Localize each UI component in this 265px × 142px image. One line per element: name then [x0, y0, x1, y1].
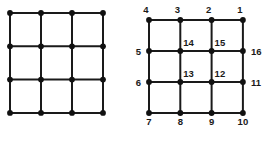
grid-vertex [7, 10, 13, 16]
grid-vertex [38, 77, 44, 83]
labeled-lattice-grid [146, 17, 246, 116]
vertex-label-5: 5 [136, 46, 142, 57]
vertex-label-8: 8 [178, 116, 183, 127]
grid-vertex [69, 110, 75, 116]
grid-vertex [7, 77, 13, 83]
grid-vertex [177, 79, 183, 85]
grid-vertex [209, 17, 215, 23]
grid-vertex [100, 43, 106, 49]
vertex-label-9: 9 [209, 116, 214, 127]
grid-vertex [177, 48, 183, 54]
grid-vertex [146, 79, 152, 85]
vertex-label-1: 1 [237, 4, 243, 15]
grid-vertex [240, 79, 246, 85]
vertex-label-13: 13 [183, 68, 194, 79]
grid-vertex [209, 48, 215, 54]
vertex-label-16: 16 [251, 46, 262, 57]
grid-vertex [69, 77, 75, 83]
vertex-label-12: 12 [215, 68, 226, 79]
grid-vertex [240, 48, 246, 54]
grid-vertex [146, 48, 152, 54]
grid-vertex [100, 110, 106, 116]
grid-vertex [69, 43, 75, 49]
vertex-label-7: 7 [146, 116, 151, 127]
vertex-label-14: 14 [183, 37, 194, 48]
vertex-label-6: 6 [136, 77, 141, 88]
grid-vertex [177, 17, 183, 23]
grid-vertex [209, 79, 215, 85]
grid-vertex [38, 43, 44, 49]
grid-vertex [240, 17, 246, 23]
vertex-label-2: 2 [206, 4, 211, 15]
vertex-label-10: 10 [238, 116, 249, 127]
vertex-label-4: 4 [143, 4, 149, 15]
grid-vertex [7, 43, 13, 49]
grid-vertex [7, 110, 13, 116]
vertex-label-3: 3 [175, 4, 180, 15]
grid-vertex [38, 10, 44, 16]
grid-vertex [146, 17, 152, 23]
vertex-label-11: 11 [251, 77, 262, 88]
lattice-diagram: 43215141516613121178910 [0, 0, 265, 142]
grid-vertex [69, 10, 75, 16]
grid-vertex [38, 110, 44, 116]
unlabeled-lattice-grid [7, 10, 106, 116]
vertex-label-15: 15 [215, 37, 226, 48]
grid-vertex [100, 77, 106, 83]
grid-vertex [100, 10, 106, 16]
